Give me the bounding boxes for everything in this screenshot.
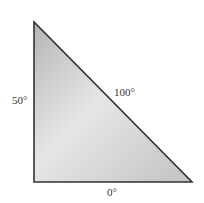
triangle-shape	[34, 22, 192, 182]
bottom-side-label: 0°	[107, 186, 117, 198]
hypotenuse-label: 100°	[114, 86, 135, 98]
left-side-label: 50°	[12, 94, 27, 106]
triangle-diagram: 50° 100° 0° t	[0, 0, 204, 203]
